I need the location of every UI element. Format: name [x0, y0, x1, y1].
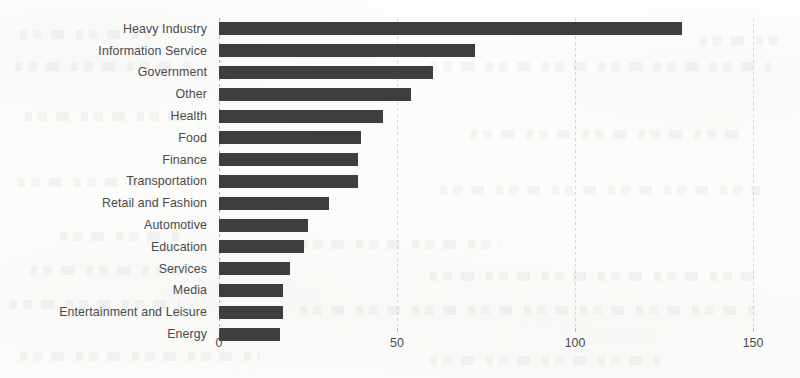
category-label: Information Service — [98, 44, 213, 58]
bar[interactable] — [219, 262, 290, 275]
bar[interactable] — [219, 219, 308, 232]
bar-slot — [219, 236, 304, 258]
bar[interactable] — [219, 131, 361, 144]
category-label: Energy — [167, 327, 213, 341]
category-label: Heavy Industry — [123, 22, 213, 36]
category-axis-labels: Heavy IndustryInformation ServiceGovernm… — [0, 18, 213, 328]
tick-mark-0 — [219, 328, 220, 332]
category-label-slot: Education — [0, 236, 213, 258]
category-label: Government — [138, 65, 213, 79]
tick-mark-50 — [397, 328, 398, 332]
bar[interactable] — [219, 44, 475, 57]
x-tick-label: 150 — [743, 336, 764, 350]
bar-slot — [219, 18, 682, 40]
x-tick-label: 100 — [565, 336, 586, 350]
category-label-slot: Government — [0, 62, 213, 84]
category-label-slot: Services — [0, 258, 213, 280]
bar-slot — [219, 83, 411, 105]
horizontal-bar-chart: Heavy IndustryInformation ServiceGovernm… — [0, 0, 800, 378]
bar-slot — [219, 149, 358, 171]
bar[interactable] — [219, 88, 411, 101]
category-label-slot: Media — [0, 280, 213, 302]
bar-slot — [219, 258, 290, 280]
category-label: Automotive — [144, 218, 213, 232]
bar[interactable] — [219, 153, 358, 166]
bar-slot — [219, 301, 283, 323]
category-label: Retail and Fashion — [102, 196, 213, 210]
tick-mark-100 — [575, 328, 576, 332]
category-label-slot: Automotive — [0, 214, 213, 236]
category-label-slot: Food — [0, 127, 213, 149]
category-label: Health — [171, 109, 213, 123]
tick-mark-150 — [753, 328, 754, 332]
bar-slot — [219, 105, 383, 127]
category-label-slot: Information Service — [0, 40, 213, 62]
category-label-slot: Other — [0, 83, 213, 105]
category-label: Finance — [162, 153, 213, 167]
category-label-slot: Heavy Industry — [0, 18, 213, 40]
bar-slot — [219, 192, 329, 214]
gridline-150 — [753, 18, 754, 328]
plot-area — [219, 18, 753, 328]
category-label-slot: Retail and Fashion — [0, 192, 213, 214]
bar[interactable] — [219, 175, 358, 188]
bar[interactable] — [219, 22, 682, 35]
bar[interactable] — [219, 110, 383, 123]
bar-slot — [219, 40, 475, 62]
category-label-slot: Transportation — [0, 171, 213, 193]
bar[interactable] — [219, 240, 304, 253]
bar-slot — [219, 62, 433, 84]
bar[interactable] — [219, 197, 329, 210]
category-label-slot: Entertainment and Leisure — [0, 301, 213, 323]
category-label-slot: Health — [0, 105, 213, 127]
category-label: Entertainment and Leisure — [59, 305, 213, 319]
bar-series — [219, 18, 753, 328]
category-label: Food — [178, 131, 213, 145]
bar-slot — [219, 127, 361, 149]
bar[interactable] — [219, 66, 433, 79]
category-label-slot: Finance — [0, 149, 213, 171]
category-label: Education — [151, 240, 213, 254]
category-label-slot: Energy — [0, 323, 213, 345]
bar-slot — [219, 280, 283, 302]
bar-slot — [219, 214, 308, 236]
category-label: Other — [176, 87, 214, 101]
category-label: Media — [173, 283, 213, 297]
x-tick-label: 50 — [390, 336, 404, 350]
bar[interactable] — [219, 284, 283, 297]
bar[interactable] — [219, 306, 283, 319]
category-label: Transportation — [126, 174, 213, 188]
bar-slot — [219, 171, 358, 193]
value-axis: 050100150 — [219, 328, 753, 358]
category-label: Services — [159, 262, 213, 276]
x-tick-label: 0 — [216, 336, 223, 350]
